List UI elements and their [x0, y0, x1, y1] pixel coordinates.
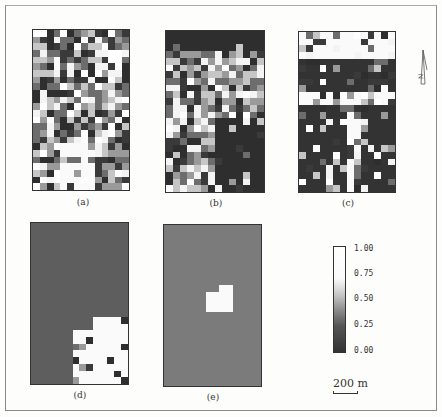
colorbar-tick: 0.00 [354, 346, 373, 355]
scale-bar-label: 200 m [333, 377, 368, 390]
colorbar-tick: 0.75 [354, 269, 373, 278]
panel-label-b: (b) [196, 198, 236, 208]
panel-label-a: (a) [63, 197, 103, 207]
panel-label-e: (e) [193, 392, 233, 402]
colorbar-tick: 0.25 [354, 320, 373, 329]
panel-label-d: (d) [60, 390, 100, 400]
map-panel-e [163, 224, 262, 387]
panel-label-c: (c) [328, 198, 368, 208]
colorbar-tick: 0.50 [354, 294, 373, 303]
colorbar-tick: 1.00 [354, 244, 373, 253]
map-panel-b [165, 30, 265, 193]
colorbar [333, 246, 346, 353]
north-arrow-icon: N [416, 48, 430, 88]
scale-bar [333, 391, 358, 394]
svg-text:N: N [417, 74, 424, 79]
map-panel-c [298, 31, 396, 193]
map-panel-a [32, 29, 130, 191]
map-panel-d [30, 222, 129, 385]
